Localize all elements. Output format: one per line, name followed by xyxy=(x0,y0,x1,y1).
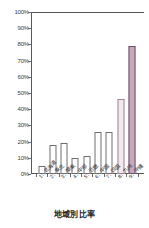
y-axis-tick-label: 30% xyxy=(1,122,29,128)
y-axis-tick-label: 90% xyxy=(1,25,29,31)
bar-series xyxy=(32,12,144,174)
y-axis-tick-label: 20% xyxy=(1,139,29,145)
y-axis-tick-label: 10% xyxy=(1,155,29,161)
bar-slot xyxy=(70,12,81,174)
bar-slot xyxy=(104,12,115,174)
bar-slot xyxy=(92,12,103,174)
x-axis-labels: 1：北海道2：東北3：関東4：中部5：近畿6：中国7：四国8：九州9：沖縄 xyxy=(0,176,149,210)
y-axis-tick-label: 80% xyxy=(1,41,29,47)
bar-slot xyxy=(81,12,92,174)
y-axis-tick-label: 70% xyxy=(1,58,29,64)
bar xyxy=(128,46,135,174)
y-axis-tick-mark xyxy=(28,174,31,175)
bar-slot xyxy=(115,12,126,174)
y-axis-tick-label: 50% xyxy=(1,90,29,96)
bar-slot xyxy=(126,12,137,174)
bar-slot xyxy=(59,12,70,174)
bar-chart: 100%90%80%70%60%50%40%30%20%10%0% 1：北海道2… xyxy=(0,0,149,228)
x-axis-title: 地域別比率 xyxy=(0,210,149,220)
y-axis-tick-label: 40% xyxy=(1,106,29,112)
bar-slot xyxy=(36,12,47,174)
y-axis-tick-label: 60% xyxy=(1,74,29,80)
y-axis-tick-label: 100% xyxy=(1,9,29,15)
bar-slot xyxy=(47,12,58,174)
